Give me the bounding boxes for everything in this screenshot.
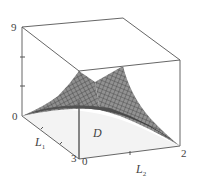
domain-label: D <box>93 127 102 139</box>
l1-max-label: 3 <box>71 153 77 164</box>
z-max-label: 9 <box>11 22 17 33</box>
l2-min-label: 0 <box>82 156 88 167</box>
surface-plot: 9 0 3 0 2 L1 L2 D <box>0 0 198 180</box>
z-min-label: 0 <box>12 111 18 122</box>
l2-max-label: 2 <box>181 148 187 159</box>
plot-canvas <box>0 0 198 180</box>
surface-left <box>22 71 100 116</box>
l1-axis-title: L1 <box>35 136 45 151</box>
l2-axis-title: L2 <box>136 163 146 178</box>
